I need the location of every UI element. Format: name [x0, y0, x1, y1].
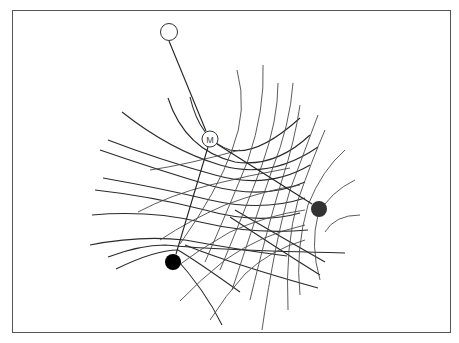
right-filled-node [311, 201, 327, 217]
link-top-to-m [169, 41, 206, 131]
field-lines-family-b [138, 65, 360, 330]
link-m-to-right [217, 144, 312, 204]
top-hollow-node [161, 24, 178, 41]
left-filled-node [165, 254, 181, 270]
link-m-to-left [176, 147, 208, 254]
field-diagram: M [0, 0, 459, 343]
m-node-label: M [206, 135, 214, 145]
